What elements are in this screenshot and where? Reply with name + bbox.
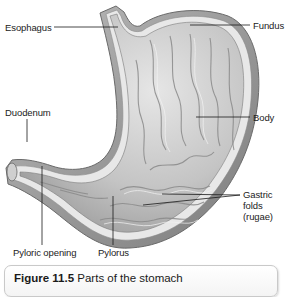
figure-title: Parts of the stomach [77,272,182,284]
label-body: Body [253,112,274,123]
label-gastric-folds: Gastric folds (rugae) [243,189,287,222]
label-gastric-folds-line-2: folds [243,200,287,211]
duodenum-opening [7,163,17,181]
label-pyloric-opening: Pyloric opening [13,247,76,258]
figure-caption: Figure 11.5 Parts of the stomach [14,272,183,284]
label-gastric-folds-line-3: (rugae) [243,211,287,222]
label-pylorus: Pylorus [98,247,129,258]
label-esophagus: Esophagus [5,22,52,33]
figure-number: Figure 11.5 [14,272,74,284]
label-gastric-folds-line-1: Gastric [243,189,287,200]
label-duodenum: Duodenum [5,107,51,118]
label-fundus: Fundus [253,20,284,31]
